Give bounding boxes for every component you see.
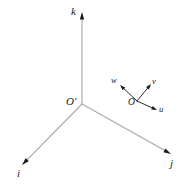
coordinate-frames-drawing: [0, 0, 182, 186]
arrowhead-u: [151, 106, 157, 110]
axis-label-i: i: [17, 168, 20, 179]
origin-label-o: O: [128, 98, 135, 108]
axis-label-u: u: [159, 105, 163, 114]
axis-label-j: j: [170, 158, 173, 169]
axis-label-w: w: [111, 76, 117, 85]
moving-frame-group: [120, 84, 157, 110]
origin-label-o-prime: O': [66, 96, 76, 107]
axis-line-u: [137, 101, 153, 108]
axis-line-i: [27, 104, 82, 160]
arrowhead-k: [80, 12, 84, 20]
axis-line-j: [82, 104, 165, 151]
axis-label-k: k: [71, 6, 76, 17]
vector-diagram-figure: k i j O' w v u O: [0, 0, 182, 186]
arrowhead-j: [163, 148, 171, 154]
axis-label-v: v: [152, 77, 156, 86]
axis-line-v: [137, 88, 148, 101]
